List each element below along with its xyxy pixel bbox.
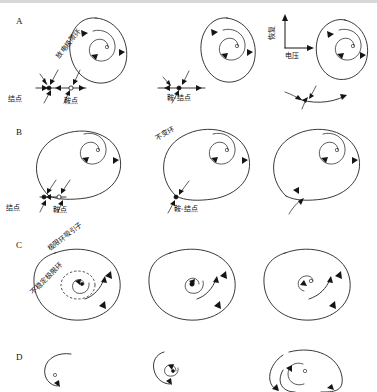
panel-d-graphics [0,0,377,392]
figure-canvas: A [0,0,377,392]
